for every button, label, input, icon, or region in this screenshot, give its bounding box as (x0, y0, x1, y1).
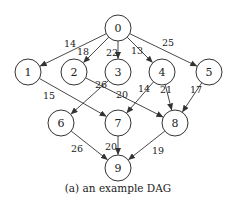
node-3: 3 (105, 59, 131, 85)
edge-weight-label: 15 (43, 90, 55, 101)
edge-weight-label: 20 (105, 141, 117, 152)
edge-weight-label: 20 (116, 89, 128, 100)
node-label: 4 (159, 66, 166, 79)
node-4: 4 (149, 59, 175, 85)
edge-weight-label: 26 (95, 79, 107, 90)
node-7: 7 (105, 110, 131, 136)
edge-weight-label: 14 (64, 38, 76, 49)
edge-weight-label: 22 (106, 47, 118, 58)
edges-layer: 1418221325152026142117262019 (39, 34, 202, 160)
edge-weight-label: 25 (162, 37, 174, 48)
node-8: 8 (162, 110, 188, 136)
edge-4-8: 21 (160, 84, 172, 110)
node-5: 5 (196, 59, 222, 85)
edge-8-9: 19 (129, 131, 165, 160)
node-label: 3 (115, 66, 122, 79)
figure-caption: (a) an example DAG (0, 182, 236, 194)
edge-0-4: 13 (127, 37, 152, 62)
edge-0-3: 22 (106, 41, 118, 59)
edge-weight-label: 14 (138, 83, 150, 94)
node-9: 9 (105, 155, 131, 181)
node-label: 8 (172, 117, 179, 130)
edge-weight-label: 17 (190, 84, 202, 95)
node-label: 9 (115, 162, 122, 175)
node-label: 6 (58, 117, 65, 130)
node-label: 2 (71, 66, 78, 79)
edge-6-9: 26 (71, 131, 107, 160)
node-label: 1 (25, 66, 32, 79)
node-1: 1 (15, 59, 41, 85)
node-label: 7 (115, 117, 122, 130)
edge-4-7: 14 (127, 82, 154, 113)
dag-diagram: 1418221325152026142117262019 0123456789 (0, 0, 236, 211)
edge-5-8: 17 (182, 83, 202, 112)
edge-weight-label: 19 (152, 145, 164, 156)
edge-7-9: 20 (105, 136, 118, 155)
edge-weight-label: 26 (71, 143, 83, 154)
edge-0-2: 18 (77, 37, 109, 62)
node-2: 2 (61, 59, 87, 85)
node-label: 0 (115, 22, 122, 35)
node-label: 5 (206, 66, 213, 79)
edge-weight-label: 18 (77, 46, 89, 57)
node-0: 0 (105, 15, 131, 41)
node-6: 6 (48, 110, 74, 136)
edge-weight-label: 13 (131, 45, 143, 56)
